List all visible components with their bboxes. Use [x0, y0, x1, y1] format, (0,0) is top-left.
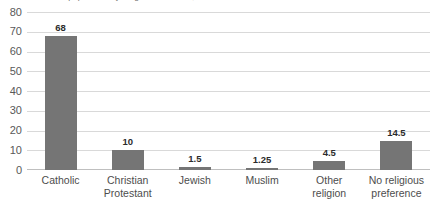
x-axis-category-label: Muslim	[229, 174, 296, 187]
y-axis-tick-label: 60	[10, 46, 22, 57]
x-axis-category-label: Jewish	[161, 174, 228, 187]
x-axis-category-line: preference	[363, 187, 430, 200]
bar-slot: 1.25	[229, 12, 296, 170]
bar-slot: 1.5	[161, 12, 228, 170]
bar-chart: Percent of population by religious affil…	[0, 0, 430, 215]
bars-layer: 68101.51.254.514.5	[27, 12, 430, 170]
x-axis-category-line: Christian	[94, 174, 161, 187]
x-axis-category-line: Catholic	[27, 174, 94, 187]
y-axis: 80706050403020100	[0, 0, 24, 172]
y-axis-tick-label: 70	[10, 26, 22, 37]
bar-value-label: 1.25	[253, 155, 272, 165]
bar[interactable]	[45, 36, 77, 170]
bar[interactable]	[313, 161, 345, 170]
y-axis-tick-label: 10	[10, 145, 22, 156]
bar-value-label: 14.5	[387, 128, 406, 138]
bar-slot: 14.5	[363, 12, 430, 170]
bar-value-label: 10	[122, 137, 133, 147]
x-axis-category-line: No religious	[363, 174, 430, 187]
y-axis-tick-label: 30	[10, 105, 22, 116]
x-axis-category-label: No religiouspreference	[363, 174, 430, 200]
bar[interactable]	[179, 167, 211, 170]
bar-slot: 4.5	[296, 12, 363, 170]
bar-value-label: 1.5	[188, 154, 201, 164]
chart-title: Percent of population by religious affil…	[26, 0, 430, 2]
y-axis-tick-label: 80	[10, 7, 22, 18]
x-axis-category-line: Other	[296, 174, 363, 187]
x-axis-category-label: Otherreligion	[296, 174, 363, 200]
x-axis-category-line: religion	[296, 187, 363, 200]
x-axis: CatholicChristianProtestantJewishMuslimO…	[27, 174, 430, 215]
x-axis-category-label: ChristianProtestant	[94, 174, 161, 200]
y-axis-tick-label: 0	[16, 165, 22, 176]
x-axis-category-line: Jewish	[161, 174, 228, 187]
bar-value-label: 4.5	[323, 148, 336, 158]
bar-slot: 68	[27, 12, 94, 170]
bar-slot: 10	[94, 12, 161, 170]
x-axis-category-line: Protestant	[94, 187, 161, 200]
plot-area: 68101.51.254.514.5	[27, 12, 430, 170]
y-axis-tick-label: 50	[10, 66, 22, 77]
x-axis-category-label: Catholic	[27, 174, 94, 187]
x-axis-category-line: Muslim	[229, 174, 296, 187]
bar[interactable]	[112, 150, 144, 170]
bar[interactable]	[246, 168, 278, 170]
y-axis-tick-label: 40	[10, 86, 22, 97]
y-axis-tick-label: 20	[10, 125, 22, 136]
bar[interactable]	[380, 141, 412, 170]
bar-value-label: 68	[55, 23, 66, 33]
